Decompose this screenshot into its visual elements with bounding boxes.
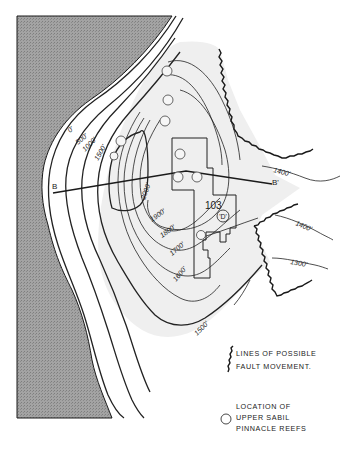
reef-marker xyxy=(173,172,183,182)
legend-reef-label-3: PINNACLE REEFS xyxy=(236,424,306,433)
field-shaded-area xyxy=(98,41,300,337)
legend-reef-icon xyxy=(221,414,231,424)
contour-label: 1500' xyxy=(93,143,108,162)
reef-marker xyxy=(192,172,202,182)
contour-label: 1400' xyxy=(295,219,314,232)
legend-fault-label-2: FAULT MOVEMENT. xyxy=(236,362,311,371)
reef-marker xyxy=(160,116,170,126)
contour-map: 'D' 103 B B' 0' 500' 1000' 1500' 2000' 1… xyxy=(0,0,354,449)
reef-marker xyxy=(175,149,185,159)
reef-marker xyxy=(110,152,118,160)
section-end-label: B' xyxy=(272,178,279,187)
contour-label: 1300' xyxy=(290,258,309,268)
section-start-label: B xyxy=(52,182,57,191)
legend-fault-label-1: LINES OF POSSIBLE xyxy=(236,349,317,358)
legend-fault-icon xyxy=(228,346,233,372)
reef-marker xyxy=(116,136,126,146)
legend-reef-label-2: UPPER SABIL xyxy=(236,413,290,422)
reef-marker xyxy=(163,95,173,105)
contour-label: 0' xyxy=(66,125,75,134)
well-d-label: 'D' xyxy=(219,213,227,220)
reef-marker xyxy=(197,231,206,240)
reef-marker xyxy=(162,66,172,76)
block-label: 103 xyxy=(205,200,222,211)
legend-reef-label-1: LOCATION OF xyxy=(236,402,291,411)
